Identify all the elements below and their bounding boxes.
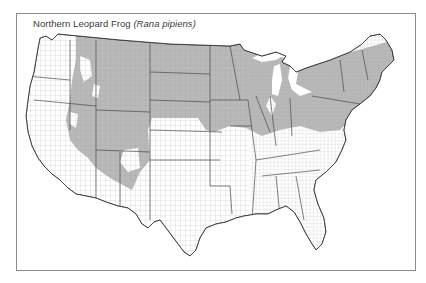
map-body	[0, 0, 426, 283]
common-name: Northern Leopard Frog	[33, 18, 131, 29]
scientific-name: (Rana pipiens)	[133, 18, 195, 29]
map-title: Northern Leopard Frog (Rana pipiens)	[33, 18, 196, 29]
us-county-map	[0, 0, 426, 283]
